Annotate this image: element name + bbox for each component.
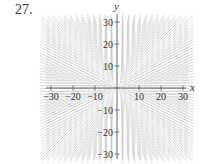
slope-segment: [57, 119, 67, 125]
slope-segment: [137, 20, 141, 31]
slope-segment: [68, 61, 78, 67]
slope-segment: [147, 34, 153, 44]
slope-segment: [153, 20, 159, 30]
slope-segment: [52, 121, 62, 127]
slope-segment: [63, 118, 72, 125]
slope-segment: [63, 55, 73, 61]
slope-segment: [81, 23, 87, 33]
slope-segment: [167, 119, 177, 125]
slope-segment: [79, 67, 89, 73]
slope-segment: [142, 15, 146, 26]
slope-segment: [81, 141, 87, 151]
y-tick-label: 30: [103, 17, 113, 28]
slope-segment: [93, 149, 97, 160]
slope-segment: [167, 121, 177, 127]
slope-segment: [93, 17, 97, 28]
y-axis-label: y: [113, 0, 119, 12]
slope-segment: [57, 53, 67, 59]
slope-segment: [41, 127, 51, 133]
slope-segment: [173, 44, 182, 50]
slope-segment: [41, 39, 51, 45]
slope-segment: [162, 113, 172, 119]
slope-segment: [156, 110, 166, 116]
slope-segment: [82, 15, 87, 25]
slope-segment: [76, 152, 82, 162]
y-tick-label: −20: [97, 127, 113, 138]
slope-segment: [82, 152, 87, 162]
slope-segment: [81, 29, 87, 39]
slope-segment: [74, 64, 84, 70]
slope-segment: [183, 106, 194, 109]
slope-segment: [40, 104, 51, 107]
slope-segment: [79, 105, 89, 111]
slope-segment: [75, 142, 81, 152]
slope-segment: [166, 74, 177, 77]
slope-segment: [137, 149, 141, 160]
slope-segment: [82, 149, 87, 159]
slope-segment: [76, 20, 82, 30]
slope-segment: [52, 50, 62, 56]
slope-segment: [84, 76, 95, 80]
slope-segment: [41, 135, 50, 142]
slope-segment: [148, 15, 153, 25]
slope-segment: [52, 127, 61, 134]
slope-segment: [46, 41, 56, 47]
slope-segment: [142, 149, 146, 160]
slope-segment: [167, 47, 176, 54]
slope-segment: [76, 18, 82, 28]
slope-segment: [147, 144, 152, 154]
slope-segment: [158, 18, 164, 28]
slope-segment: [151, 61, 161, 67]
slope-segment: [153, 150, 159, 160]
slope-segment: [46, 132, 55, 139]
slope-segment: [183, 122, 193, 127]
slope-segment: [68, 113, 78, 119]
slope-segment: [151, 108, 161, 114]
x-tick-label: 20: [156, 91, 166, 102]
slope-segment: [145, 105, 155, 111]
slope-segment: [68, 58, 78, 64]
slope-segment: [173, 127, 182, 134]
slope-segment: [142, 17, 146, 28]
slope-segment: [87, 130, 93, 140]
x-tick-label: −10: [87, 91, 103, 102]
slope-segment: [142, 152, 146, 163]
slope-segment: [87, 20, 92, 30]
slope-segment: [142, 130, 148, 140]
slope-segment: [152, 144, 158, 154]
slope-segment: [137, 152, 140, 163]
slope-segment: [139, 76, 150, 80]
slope-segment: [46, 56, 56, 61]
slope-segment: [62, 108, 72, 113]
slope-segment: [183, 74, 194, 76]
slope-segment: [142, 31, 147, 41]
slope-segment: [73, 76, 84, 79]
slope-segment: [158, 150, 164, 160]
slope-segment: [184, 127, 194, 133]
slope-segment: [158, 15, 164, 25]
slope-segment: [162, 118, 171, 125]
slope-segment: [40, 74, 51, 76]
slope-segment: [178, 56, 188, 61]
slope-segment: [52, 47, 62, 53]
slope-segment: [178, 41, 188, 47]
slope-segment: [57, 116, 67, 122]
slope-segment: [41, 45, 51, 51]
slope-segment: [87, 31, 92, 41]
slope-segment: [178, 122, 188, 128]
slope-segment: [184, 33, 193, 40]
slope-segment: [178, 127, 188, 133]
slope-segment: [70, 18, 76, 28]
slope-segment: [184, 36, 193, 43]
slope-segment: [93, 146, 97, 157]
slope-segment: [51, 59, 61, 64]
slope-segment: [184, 42, 194, 48]
slope-segment: [172, 59, 182, 64]
slope-segment: [137, 146, 141, 157]
slope-segment: [87, 149, 91, 160]
slope-segment: [40, 71, 51, 74]
slope-segment: [41, 36, 50, 43]
slope-segment: [87, 128, 93, 138]
slope-segment: [184, 45, 194, 51]
slope-segment: [51, 104, 62, 107]
